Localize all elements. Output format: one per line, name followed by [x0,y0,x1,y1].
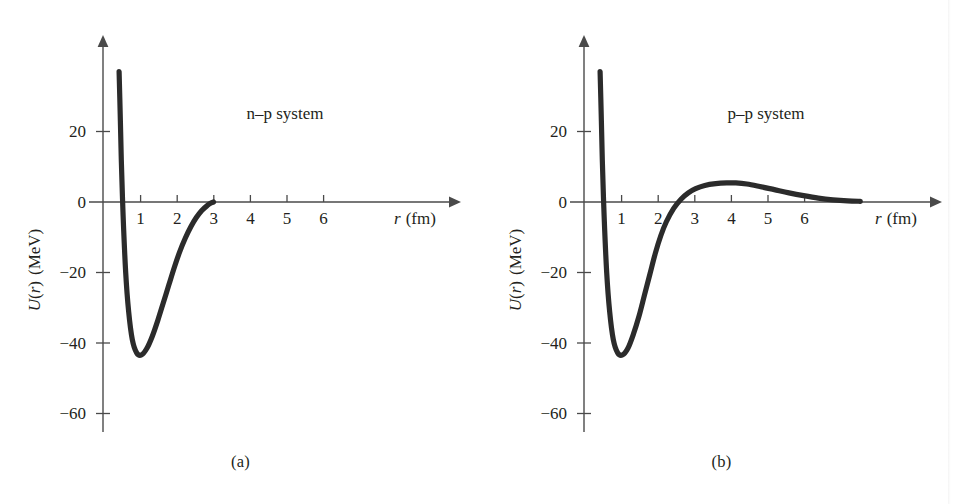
y-axis-unit: (MeV) [25,229,44,275]
y-tick-label-0: 0 [78,193,87,212]
y-tick-label-0: 0 [559,193,568,212]
plot-b: 1 2 3 4 5 6 20 0 −20 −40 −60 r(fm) U(r)(… [481,0,962,470]
x-axis-b [570,197,942,208]
x-axis-unit: (fm) [887,209,917,228]
x-tick-label-4: 4 [727,209,736,228]
x-axis-symbol: r [875,209,882,228]
svg-text:r(fm): r(fm) [875,209,917,228]
system-label-a: n–p system [247,104,324,123]
x-ticks-b [622,195,805,202]
x-tick-label-1: 1 [617,209,626,228]
y-axis-label-b: U(r)(MeV) [506,229,525,312]
x-tick-label-3: 3 [210,209,219,228]
x-tick-label-5: 5 [283,209,292,228]
x-tick-label-1: 1 [136,209,145,228]
x-ticks-a [141,195,324,202]
y-tick-label-minus40: −40 [59,334,86,353]
system-label-b: p–p system [728,104,805,123]
x-tick-label-6: 6 [800,209,809,228]
x-tick-label-6: 6 [319,209,328,228]
y-axis-label-a: U(r)(MeV) [25,229,44,312]
x-tick-label-3: 3 [691,209,700,228]
y-tick-label-20: 20 [69,122,86,141]
x-tick-label-2: 2 [654,209,663,228]
x-tick-label-2: 2 [173,209,182,228]
y-tick-label-minus20: −20 [59,263,86,282]
svg-text:U(r)(MeV): U(r)(MeV) [25,229,44,312]
y-tick-label-20: 20 [550,122,567,141]
y-tick-label-minus60: −60 [59,404,86,423]
x-axis-label-b: r(fm) [875,209,917,228]
y-tick-label-minus20: −20 [540,263,567,282]
y-tick-label-minus60: −60 [540,404,567,423]
x-axis-unit: (fm) [406,209,436,228]
figure-root: 1 2 3 4 5 6 20 0 −20 −40 −60 r(fm) U(r)(… [0,0,963,504]
x-axis-a [89,197,461,208]
y-tick-label-minus40: −40 [540,334,567,353]
panel-b: 1 2 3 4 5 6 20 0 −20 −40 −60 r(fm) U(r)(… [481,0,962,504]
y-axis-a [98,35,109,432]
y-axis-b [579,35,590,432]
x-tick-label-4: 4 [246,209,255,228]
panel-a: 1 2 3 4 5 6 20 0 −20 −40 −60 r(fm) U(r)(… [0,0,481,504]
plot-a: 1 2 3 4 5 6 20 0 −20 −40 −60 r(fm) U(r)(… [0,0,481,470]
svg-text:r(fm): r(fm) [394,209,436,228]
svg-text:U(r)(MeV): U(r)(MeV) [506,229,525,312]
x-tick-label-5: 5 [764,209,773,228]
x-axis-symbol: r [394,209,401,228]
panel-caption-b: (b) [481,452,962,472]
y-axis-unit: (MeV) [506,229,525,275]
x-axis-label-a: r(fm) [394,209,436,228]
potential-curve-a [119,72,213,356]
panel-caption-a: (a) [0,452,481,472]
